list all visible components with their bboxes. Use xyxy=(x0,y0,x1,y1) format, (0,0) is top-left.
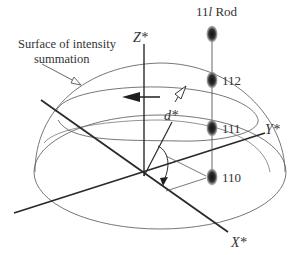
caption-pointer-head-icon xyxy=(71,77,81,85)
rotation-arrow-icon xyxy=(122,92,140,102)
spot-110 xyxy=(206,168,218,186)
spot-112 xyxy=(206,71,218,89)
z-axis-label: Z* xyxy=(133,30,148,45)
x-axis xyxy=(41,100,228,232)
reflection-label-112: 112 xyxy=(222,73,241,88)
caption-line-1: Surface of intensity xyxy=(18,37,117,51)
spot-111 xyxy=(206,119,218,137)
caption-pointer xyxy=(42,64,76,82)
angle-arc xyxy=(158,146,168,180)
rod-label: 11l Rod xyxy=(196,4,238,19)
spot-top xyxy=(206,25,218,43)
d-star-label: d* xyxy=(164,108,178,123)
reciprocal-space-diagram: Surface of intensity summation 11l Rod 1… xyxy=(0,0,290,255)
x-axis-label: X* xyxy=(230,235,247,250)
y-axis-label: Y* xyxy=(265,122,280,137)
reflection-label-110: 110 xyxy=(222,170,241,185)
projection-line-b xyxy=(166,178,206,191)
hemisphere-base-ellipse xyxy=(34,115,286,229)
reflection-label-111: 111 xyxy=(222,121,241,136)
caption-line-2: summation xyxy=(34,52,90,66)
